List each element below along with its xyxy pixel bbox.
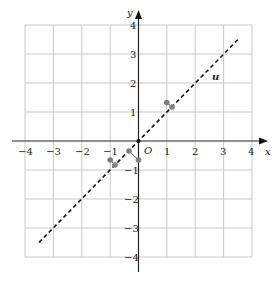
svg-text:1: 1 xyxy=(164,146,170,157)
svg-text:4: 4 xyxy=(130,20,136,31)
data-point xyxy=(136,157,142,163)
x-axis-arrow-icon xyxy=(259,138,268,145)
data-points xyxy=(107,100,174,168)
svg-text:−3: −3 xyxy=(124,223,139,234)
svg-text:−4: −4 xyxy=(124,252,139,263)
svg-text:−1: −1 xyxy=(124,165,139,176)
svg-text:3: 3 xyxy=(130,49,136,60)
svg-text:−2: −2 xyxy=(124,194,139,205)
svg-text:−2: −2 xyxy=(75,146,90,157)
svg-text:3: 3 xyxy=(220,146,226,157)
line-u-label: u xyxy=(212,71,219,82)
origin-dot xyxy=(137,139,141,143)
svg-text:2: 2 xyxy=(130,78,136,89)
svg-text:1: 1 xyxy=(130,107,136,118)
svg-text:−4: −4 xyxy=(18,146,33,157)
projection-point xyxy=(169,104,175,110)
svg-text:−1: −1 xyxy=(103,146,118,157)
svg-text:4: 4 xyxy=(248,146,254,157)
origin-label: O xyxy=(144,145,152,156)
data-point xyxy=(107,157,113,163)
svg-text:−3: −3 xyxy=(46,146,61,157)
projection-point xyxy=(112,162,118,168)
x-axis-label: x xyxy=(265,146,271,157)
y-axis-label: y xyxy=(126,7,133,18)
projection-point xyxy=(126,148,132,154)
x-tick-labels: −4 −3 −2 −1 1 2 3 4 xyxy=(18,146,254,157)
y-axis-arrow-icon xyxy=(135,10,142,19)
chart: x y O −4 −3 −2 −1 1 2 3 4 4 3 2 1 −1 −2 … xyxy=(0,0,277,281)
svg-text:2: 2 xyxy=(192,146,198,157)
data-point xyxy=(164,100,170,106)
